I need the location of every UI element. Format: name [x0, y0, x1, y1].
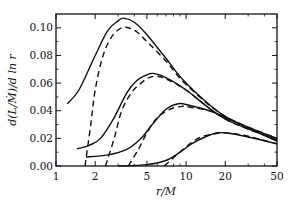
- y-axis-label: d(L/Ṁ)/d ln r: [5, 54, 19, 126]
- x-tick-labels: 125102050: [53, 170, 284, 182]
- y-tick-label: 0.10: [30, 21, 53, 33]
- x-tick-label: 50: [270, 170, 283, 182]
- axis-ticks: [56, 14, 277, 166]
- series-curve-4-dashed: [164, 133, 277, 166]
- x-tick-label: 20: [219, 170, 232, 182]
- y-tick-label: 0.06: [30, 77, 54, 89]
- plot-frame: [56, 14, 277, 166]
- y-tick-label: 0.08: [30, 49, 53, 61]
- series-curve-3-solid: [86, 103, 277, 157]
- series-curve-1-dashed: [85, 27, 277, 166]
- x-axis-label: r/M: [156, 185, 177, 198]
- x-tick-label: 10: [179, 170, 192, 182]
- x-tick-label: 5: [144, 170, 151, 182]
- series-curve-1-solid: [67, 18, 277, 138]
- y-tick-label: 0.02: [30, 132, 53, 144]
- y-tick-label: 0.04: [30, 104, 54, 116]
- plot-lines: [67, 18, 277, 166]
- y-tick-labels: 0.000.020.040.060.080.10: [30, 21, 54, 171]
- x-tick-label: 2: [92, 170, 99, 182]
- y-tick-label: 0.00: [30, 160, 53, 172]
- series-curve-3-dashed: [128, 106, 277, 166]
- x-tick-label: 1: [53, 170, 60, 182]
- chart: 125102050 0.000.020.040.060.080.10 r/M d…: [0, 0, 298, 204]
